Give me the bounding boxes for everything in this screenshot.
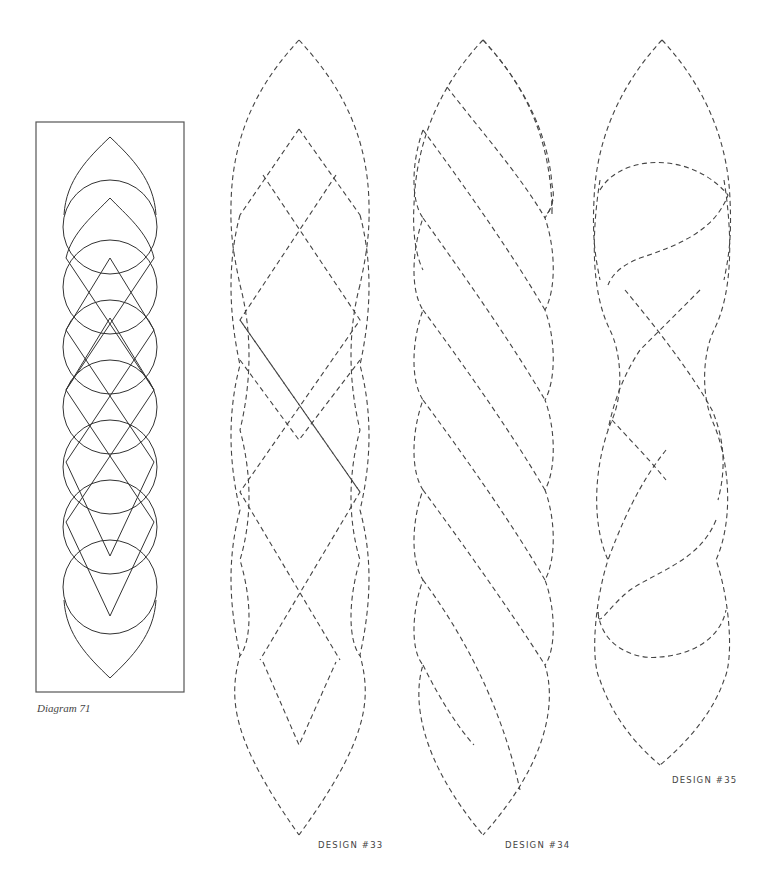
- design-35: [593, 40, 730, 765]
- diagram-caption: Diagram 71: [37, 702, 90, 714]
- design-34-label: DESIGN #34: [505, 840, 570, 850]
- diagram-top-arc-right: [110, 137, 156, 215]
- designs-drawing: [0, 0, 769, 872]
- d34-left-edge: [414, 130, 483, 835]
- d33-top-right: [299, 40, 369, 285]
- d33-right-weave: [299, 215, 369, 835]
- d35-right-edge: [660, 180, 730, 765]
- diagram-bottom-arc-right: [110, 600, 156, 678]
- d35-top-right: [662, 40, 731, 280]
- d33-right-inner: [351, 285, 360, 656]
- d35-upper-loop: [600, 163, 728, 286]
- d34-top-right: [483, 40, 553, 215]
- diagram-top-arc-left: [64, 137, 110, 215]
- design-33-label: DESIGN #33: [318, 840, 383, 850]
- d34-right-edge: [483, 40, 553, 835]
- diagram-frame: [36, 122, 184, 692]
- d35-lower-loop: [598, 610, 726, 657]
- d33-left-inner: [240, 285, 249, 656]
- diagram-71: [36, 122, 184, 692]
- quilting-designs-page: Diagram 71 DESIGN #33 DESIGN #34 DESIGN …: [0, 0, 769, 872]
- d33-left-weave: [231, 215, 299, 835]
- d34-top-left: [414, 40, 483, 270]
- d33-top-left: [231, 40, 299, 285]
- diagram-lens-lattice: [66, 198, 154, 616]
- design-34: [414, 40, 554, 835]
- diagram-bottom-arc-left: [64, 600, 110, 678]
- design-35-label: DESIGN #35: [672, 775, 737, 785]
- design-33: [231, 40, 369, 835]
- d35-top-left: [593, 40, 662, 280]
